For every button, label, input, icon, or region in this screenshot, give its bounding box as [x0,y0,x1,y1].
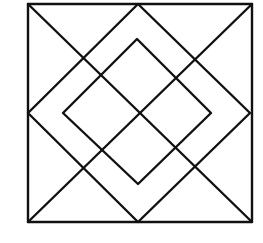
pattern-canvas [0,0,263,243]
geometric-diagram [0,0,263,243]
